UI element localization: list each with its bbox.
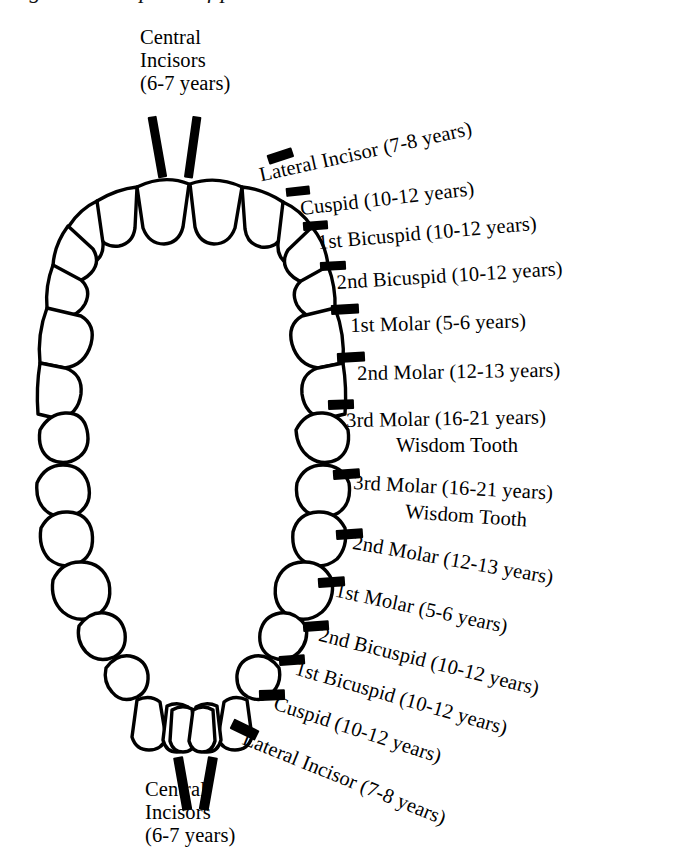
upper-tooth-third-molar-left bbox=[39, 413, 88, 463]
lower-tooth-second-molar-left bbox=[40, 512, 92, 566]
label-lower-central-incisors: Central Incisors (6-7 years) bbox=[145, 778, 235, 847]
upper-tooth-second-molar-right bbox=[302, 363, 346, 419]
upper-tooth-second-molar-left bbox=[37, 363, 81, 419]
leader-bar-upper-second-bicuspid bbox=[320, 261, 346, 271]
upper-tooth-central-incisor-left bbox=[137, 180, 189, 244]
label-upper-central-incisors: Central Incisors (6-7 years) bbox=[140, 26, 230, 95]
label-upper-third-molar: 3rd Molar (16-21 years) bbox=[346, 406, 546, 432]
lower-tooth-cuspid-left bbox=[132, 697, 166, 750]
label-upper-second-molar: 2nd Molar (12-13 years) bbox=[357, 358, 561, 384]
upper-tooth-first-molar-right bbox=[291, 308, 344, 368]
eruption-diagram-page: Figure 3. Eruption of permanent teeth bbox=[0, 0, 684, 862]
upper-tooth-central-incisor-right bbox=[190, 180, 242, 244]
upper-tooth-lateral-incisor-right bbox=[242, 187, 283, 247]
upper-tooth-first-molar-left bbox=[39, 308, 92, 368]
label-upper-first-molar: 1st Molar (5-6 years) bbox=[350, 309, 526, 337]
lower-tooth-central-incisor-right bbox=[189, 707, 215, 752]
lower-tooth-third-molar-left bbox=[37, 465, 90, 517]
lower-tooth-second-bicuspid-left bbox=[78, 613, 125, 660]
lower-tooth-second-bicuspid-right bbox=[260, 613, 307, 660]
lower-tooth-first-molar-right bbox=[275, 562, 332, 619]
label-upper-wisdom-tooth: Wisdom Tooth bbox=[396, 434, 518, 457]
lower-tooth-first-bicuspid-left bbox=[105, 656, 148, 700]
upper-tooth-third-molar-right bbox=[296, 413, 349, 463]
lower-tooth-first-molar-left bbox=[52, 562, 109, 619]
